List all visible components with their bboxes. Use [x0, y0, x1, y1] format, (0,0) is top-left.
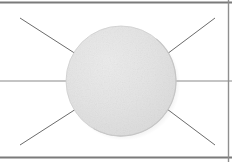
disk-shape — [66, 26, 176, 136]
radiating-disk-figure — [0, 0, 232, 162]
figure-svg-canvas — [0, 0, 232, 162]
